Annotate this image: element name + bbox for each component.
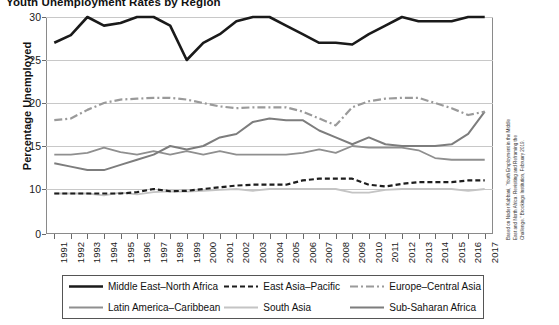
x-tick-label: 2006: [307, 242, 318, 263]
legend-item-label: South Asia: [263, 302, 311, 313]
y-tick-label: 20: [29, 97, 41, 109]
x-tick-mark: [236, 234, 237, 239]
x-tick-label: 2004: [274, 242, 285, 263]
legend-item[interactable]: East Asia–Pacific: [220, 281, 346, 292]
x-tick-label: 2008: [340, 242, 351, 263]
x-tick-mark: [104, 234, 105, 239]
x-tick-mark: [87, 234, 88, 239]
x-tick-label: 1993: [91, 242, 102, 263]
x-tick-label: 2005: [290, 242, 301, 263]
legend-item-label: Middle East–North Africa: [108, 281, 218, 292]
y-tick-label: 30: [29, 11, 41, 23]
x-tick-mark: [220, 234, 221, 239]
x-tick-mark: [452, 234, 453, 239]
x-tick-label: 2012: [406, 242, 417, 263]
x-tick-label: 1996: [141, 242, 152, 263]
x-tick-mark: [319, 234, 320, 239]
legend-item[interactable]: Sub-Saharan Africa: [346, 302, 481, 313]
series-line-latin-america-caribbean: [54, 146, 484, 160]
x-tick-label: 2007: [323, 242, 334, 263]
x-tick-label: 1992: [75, 242, 86, 263]
series-line-east-asia-pacific: [54, 179, 484, 194]
legend-item[interactable]: South Asia: [220, 302, 346, 313]
x-tick-label: 2001: [224, 242, 235, 263]
x-tick-mark: [435, 234, 436, 239]
x-tick-mark: [468, 234, 469, 239]
series-lines: [46, 17, 493, 234]
x-tick-label: 1995: [125, 242, 136, 263]
x-tick-label: 2014: [439, 242, 450, 263]
x-tick-mark: [303, 234, 304, 239]
x-tick-mark: [369, 234, 370, 239]
chart-legend: Middle East–North AfricaEast Asia–Pacifi…: [62, 275, 484, 319]
source-note: Based on Nader Kabbani, “Youth Employmen…: [506, 112, 527, 240]
x-tick-mark: [137, 234, 138, 239]
legend-item[interactable]: Latin America–Caribbean: [65, 302, 220, 313]
x-tick-label: 1999: [191, 242, 202, 263]
x-tick-mark: [336, 234, 337, 239]
chart-title: Youth Unemployment Rates by Region: [6, 0, 221, 8]
x-tick-mark: [485, 234, 486, 239]
x-tick-mark: [253, 234, 254, 239]
y-tick-label: 0: [35, 228, 41, 240]
x-tick-label: 2016: [472, 242, 483, 263]
x-tick-label: 1998: [174, 242, 185, 263]
series-line-sub-saharan-africa: [54, 112, 484, 170]
legend-line-swatch: [350, 302, 384, 313]
x-tick-mark: [170, 234, 171, 239]
y-tick-label: 15: [29, 140, 41, 152]
legend-item-label: Europe–Central Asia: [389, 281, 481, 292]
x-tick-label: 2013: [423, 242, 434, 263]
legend-item-label: East Asia–Pacific: [263, 281, 340, 292]
legend-item[interactable]: Europe–Central Asia: [346, 281, 481, 292]
legend-line-swatch: [69, 281, 103, 292]
x-tick-label: 2003: [257, 242, 268, 263]
x-tick-mark: [187, 234, 188, 239]
y-tick-label: 10: [29, 183, 41, 195]
legend-line-swatch: [69, 302, 103, 313]
x-tick-label: 1997: [158, 242, 169, 263]
legend-item-label: Sub-Saharan Africa: [389, 302, 476, 313]
x-tick-label: 2010: [373, 242, 384, 263]
series-line-europe-central-asia: [54, 98, 484, 126]
x-tick-label: 2002: [240, 242, 251, 263]
x-tick-mark: [419, 234, 420, 239]
legend-line-swatch: [224, 281, 258, 292]
x-tick-mark: [203, 234, 204, 239]
x-tick-mark: [270, 234, 271, 239]
y-tick-mark: [42, 234, 46, 235]
series-line-middle-east-north-africa: [54, 17, 484, 60]
x-tick-mark: [352, 234, 353, 239]
x-tick-mark: [154, 234, 155, 239]
x-tick-label: 2011: [389, 242, 400, 262]
x-tick-label: 1994: [108, 242, 119, 263]
x-tick-mark: [402, 234, 403, 239]
legend-line-swatch: [350, 281, 384, 292]
y-tick-label: 25: [29, 54, 41, 66]
legend-item[interactable]: Middle East–North Africa: [65, 281, 220, 292]
x-tick-label: 2009: [356, 242, 367, 263]
chart-root: Youth Unemployment Rates by Region Perce…: [0, 0, 559, 325]
legend-item-label: Latin America–Caribbean: [108, 302, 220, 313]
x-tick-label: 2017: [489, 242, 500, 263]
x-tick-mark: [54, 234, 55, 239]
x-tick-label: 1991: [58, 242, 69, 263]
x-tick-mark: [121, 234, 122, 239]
x-tick-label: 2000: [207, 242, 218, 263]
x-tick-mark: [71, 234, 72, 239]
x-tick-mark: [385, 234, 386, 239]
legend-line-swatch: [224, 302, 258, 313]
x-tick-mark: [286, 234, 287, 239]
plot-area: 01015202530 1991199219931994199519961997…: [46, 17, 493, 234]
x-tick-label: 2015: [456, 242, 467, 263]
